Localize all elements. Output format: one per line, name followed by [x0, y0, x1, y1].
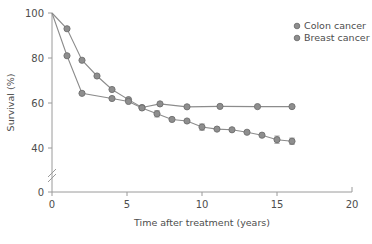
data-point-marker: [79, 90, 85, 96]
data-point-marker: [289, 138, 295, 144]
data-point-marker: [217, 103, 223, 109]
series-colon-cancer: [52, 13, 295, 111]
legend-label-colon-cancer: Colon cancer: [304, 20, 366, 31]
data-point-marker: [64, 26, 70, 32]
y-axis-ticks: 0406080100: [25, 8, 52, 198]
series-line: [52, 13, 292, 108]
legend-label-breast-cancer: Breast cancer: [304, 32, 370, 43]
chart-legend: Colon cancerBreast cancer: [294, 20, 370, 43]
data-point-marker: [214, 126, 220, 132]
y-tick-label: 0: [38, 187, 44, 198]
data-point-marker: [169, 116, 175, 122]
data-point-marker: [289, 104, 295, 110]
survival-chart-figure: 040608010005101520Time after treatment (…: [0, 0, 372, 244]
x-axis-title: Time after treatment (years): [133, 217, 270, 228]
data-point-marker: [94, 73, 100, 79]
data-point-marker: [199, 124, 205, 130]
data-point-marker: [244, 129, 250, 135]
x-tick-label: 15: [271, 199, 284, 210]
data-point-marker: [157, 101, 163, 107]
y-tick-label: 60: [31, 98, 44, 109]
y-tick-label: 100: [25, 8, 44, 19]
data-point-marker: [184, 118, 190, 124]
data-point-marker: [139, 105, 145, 111]
data-point-marker: [254, 104, 260, 110]
chart-canvas: 040608010005101520Time after treatment (…: [0, 0, 372, 244]
data-point-marker: [109, 86, 115, 92]
y-tick-label: 40: [31, 143, 44, 154]
legend-circle-icon: [294, 23, 300, 29]
data-point-marker: [125, 98, 131, 104]
y-axis-title: Survival (%): [5, 74, 16, 132]
x-tick-label: 20: [346, 199, 359, 210]
y-tick-label: 80: [31, 53, 44, 64]
legend-circle-icon: [294, 35, 300, 41]
data-point-marker: [229, 127, 235, 133]
data-point-marker: [274, 137, 280, 143]
x-tick-label: 5: [124, 199, 130, 210]
x-axis-ticks: 05101520: [49, 192, 359, 210]
series-breast-cancer: [52, 13, 295, 144]
x-tick-label: 0: [49, 199, 55, 210]
data-point-marker: [184, 104, 190, 110]
data-point-marker: [259, 132, 265, 138]
data-point-marker: [64, 53, 70, 59]
data-point-marker: [109, 95, 115, 101]
x-tick-label: 10: [196, 199, 209, 210]
data-point-marker: [154, 111, 160, 117]
data-point-marker: [79, 57, 85, 63]
